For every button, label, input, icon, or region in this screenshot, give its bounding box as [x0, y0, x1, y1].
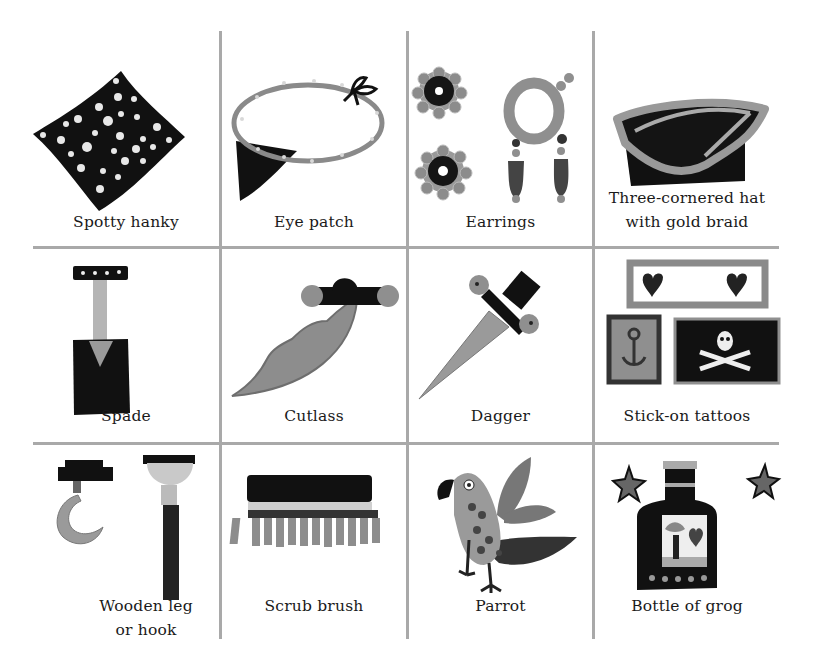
- item-label: Stick-on tattoos: [595, 405, 779, 427]
- item-three-cornered-hat: Three-cornered hat with gold braid: [595, 31, 779, 246]
- item-parrot: Parrot: [409, 445, 592, 639]
- item-spotty-hanky: Spotty hanky: [33, 31, 219, 246]
- item-label: Spotty hanky: [33, 211, 219, 233]
- item-stick-on-tattoos: Stick-on tattoos: [595, 249, 779, 442]
- item-label: or hook: [73, 619, 219, 641]
- item-scrub-brush: Scrub brush: [222, 445, 406, 639]
- item-eye-patch: Eye patch: [222, 31, 406, 246]
- item-label: Spade: [33, 405, 219, 427]
- item-label: with gold braid: [595, 211, 779, 233]
- item-label: Wooden leg: [73, 595, 219, 617]
- item-label: Three-cornered hat: [595, 187, 779, 209]
- item-label: Scrub brush: [222, 595, 406, 617]
- item-label: Cutlass: [222, 405, 406, 427]
- item-spade: Spade: [33, 249, 219, 442]
- item-wooden-leg-or-hook: Wooden leg or hook: [33, 445, 219, 639]
- item-label: Bottle of grog: [595, 595, 779, 617]
- item-cutlass: Cutlass: [222, 249, 406, 442]
- item-label: Earrings: [409, 211, 592, 233]
- item-label: Eye patch: [222, 211, 406, 233]
- item-earrings: Earrings: [409, 31, 592, 246]
- item-label: Parrot: [409, 595, 592, 617]
- item-dagger: Dagger: [409, 249, 592, 442]
- item-label: Dagger: [409, 405, 592, 427]
- item-bottle-of-grog: Bottle of grog: [595, 445, 779, 639]
